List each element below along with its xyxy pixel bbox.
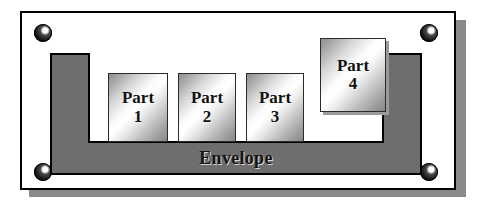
- part-3-number: 3: [271, 108, 280, 126]
- part-4-number: 4: [349, 75, 358, 93]
- part-2-word: Part: [191, 89, 223, 107]
- part-4-word: Part: [337, 57, 369, 75]
- mounting-plate: Envelope Part 1 Part 2 Part 3 Part 4: [20, 11, 456, 190]
- part-2-number: 2: [203, 108, 212, 126]
- part-box-4: Part 4: [320, 38, 386, 112]
- part-box-3: Part 3: [246, 73, 304, 142]
- rivet-icon-top-right: [420, 24, 438, 42]
- part-3-word: Part: [259, 89, 291, 107]
- diagram-canvas: Envelope Part 1 Part 2 Part 3 Part 4: [0, 0, 482, 207]
- part-1-number: 1: [134, 108, 143, 126]
- part-box-2: Part 2: [178, 73, 236, 142]
- part-1-word: Part: [122, 89, 154, 107]
- rivet-icon-top-left: [34, 24, 52, 42]
- envelope-label: Envelope: [50, 141, 422, 175]
- rivet-icon-bottom-right: [420, 163, 438, 181]
- part-box-1: Part 1: [108, 73, 168, 142]
